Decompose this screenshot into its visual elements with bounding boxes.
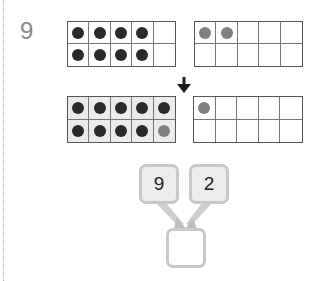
ten-frame-cell — [132, 120, 153, 143]
counter-dot — [198, 102, 210, 114]
ten-frame-cell — [238, 22, 259, 44]
counter-dot — [136, 125, 148, 137]
ten-frame-cell — [194, 120, 216, 143]
ten-frame-cell — [111, 97, 132, 120]
ten-frame-cell — [89, 44, 110, 66]
ten-frame-cell — [195, 22, 216, 44]
counter-dot — [115, 27, 127, 39]
counter-dot — [72, 125, 84, 137]
down-arrow-icon — [177, 77, 191, 93]
ten-frame-top-right — [194, 21, 303, 67]
counter-dot — [115, 102, 127, 114]
ten-frame-cell — [216, 120, 238, 143]
ten-frame-cell — [154, 22, 175, 44]
ten-frame-bottom-left — [67, 96, 176, 143]
ten-frame-cell — [259, 22, 280, 44]
bond-part-left-value: 9 — [154, 173, 165, 195]
ten-frame-cell — [111, 120, 132, 143]
counter-dot — [94, 27, 106, 39]
ten-frame-cell — [111, 22, 132, 44]
ten-frame-cell — [111, 44, 132, 66]
ten-frame-top-left — [67, 21, 176, 67]
ten-frame-cell — [216, 22, 237, 44]
answer-box[interactable] — [166, 228, 206, 268]
ten-frame-cell — [132, 97, 153, 120]
ten-frame-cell — [154, 44, 175, 66]
counter-dot — [199, 27, 211, 39]
bond-part-left: 9 — [139, 164, 179, 204]
bond-part-right: 2 — [189, 164, 229, 204]
ten-frame-cell — [68, 97, 89, 120]
counter-dot — [115, 49, 127, 61]
ten-frame-cell — [280, 97, 302, 120]
counter-dot — [94, 102, 106, 114]
counter-dot — [158, 102, 170, 114]
counter-dot — [72, 102, 84, 114]
counter-dot — [72, 27, 84, 39]
ten-frame-cell — [89, 22, 110, 44]
counter-dot — [115, 125, 127, 137]
counter-dot — [136, 27, 148, 39]
counter-dot — [94, 125, 106, 137]
ten-frame-cell — [237, 120, 259, 143]
ten-frame-cell — [259, 44, 280, 66]
ten-frame-cell — [238, 44, 259, 66]
ten-frame-cell — [194, 97, 216, 120]
ten-frame-cell — [216, 44, 237, 66]
ten-frame-cell — [68, 22, 89, 44]
ten-frame-cell — [259, 120, 281, 143]
ten-frame-cell — [68, 120, 89, 143]
ten-frame-cell — [132, 22, 153, 44]
counter-dot — [136, 49, 148, 61]
counter-dot — [94, 49, 106, 61]
counter-dot — [136, 102, 148, 114]
ten-frame-cell — [280, 120, 302, 143]
ten-frame-cell — [195, 44, 216, 66]
ten-frame-cell — [89, 120, 110, 143]
ten-frame-cell — [237, 97, 259, 120]
bond-part-right-value: 2 — [204, 173, 215, 195]
ten-frame-cell — [281, 22, 302, 44]
ten-frame-cell — [259, 97, 281, 120]
ten-frame-cell — [132, 44, 153, 66]
ten-frame-cell — [154, 120, 175, 143]
margin-dotted-line — [3, 0, 4, 281]
ten-frame-cell — [68, 44, 89, 66]
problem-number: 9 — [20, 19, 33, 43]
ten-frame-cell — [281, 44, 302, 66]
counter-dot — [221, 27, 233, 39]
counter-dot — [158, 125, 170, 137]
ten-frame-cell — [89, 97, 110, 120]
ten-frame-cell — [154, 97, 175, 120]
counter-dot — [72, 49, 84, 61]
ten-frame-bottom-right — [193, 96, 303, 143]
ten-frame-cell — [216, 97, 238, 120]
